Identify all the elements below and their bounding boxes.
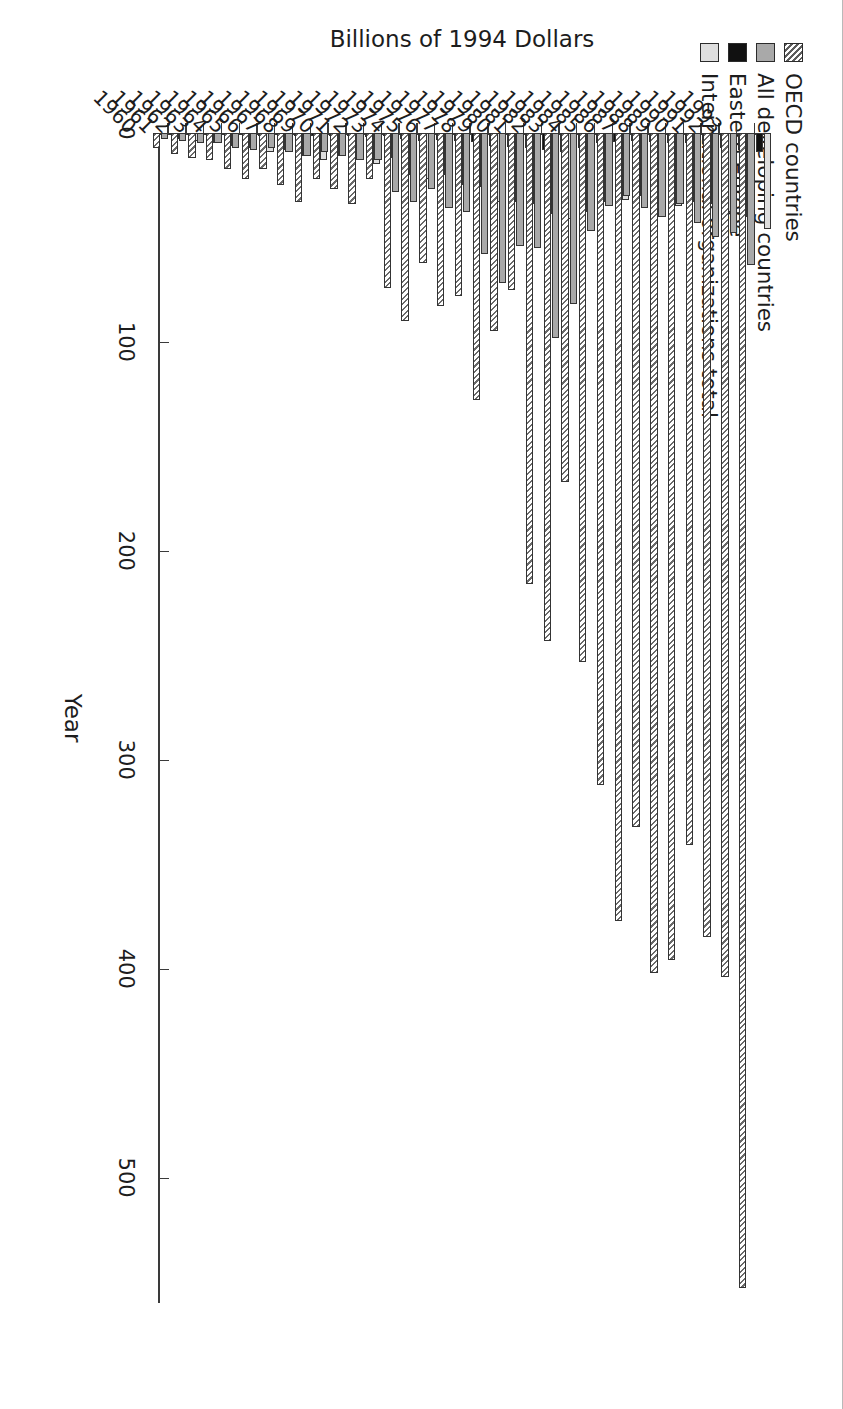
bar-group	[444, 133, 462, 1303]
bar	[561, 133, 568, 482]
bar	[614, 133, 621, 921]
bar	[525, 133, 532, 584]
y-axis-title-text: Billions of 1994 Dollars	[329, 26, 594, 52]
bar-group	[426, 133, 444, 1303]
bar	[721, 133, 728, 977]
bar-group	[302, 133, 320, 1303]
bar	[667, 133, 674, 960]
bar-group	[160, 133, 178, 1303]
bar-group	[746, 133, 764, 1303]
value-tick	[158, 341, 169, 342]
bar-group	[284, 133, 302, 1303]
bar-group	[248, 133, 266, 1303]
legend-item: OECD countries	[780, 43, 808, 418]
value-tick	[158, 550, 169, 551]
bar-chart-figure: OECD countriesAll developing countriesEa…	[22, 25, 822, 1385]
y-axis-title: Billions of 1994 Dollars	[160, 19, 764, 59]
page: OECD countriesAll developing countriesEa…	[0, 0, 843, 1409]
bar	[703, 133, 710, 937]
bar-group	[231, 133, 249, 1303]
bar-group	[177, 133, 195, 1303]
bar	[755, 133, 762, 152]
bar	[579, 133, 586, 662]
plot-area: 0100200300400500 19601961196219631964196…	[160, 133, 764, 1303]
bar-group	[337, 133, 355, 1303]
bar	[596, 133, 603, 785]
bar	[685, 133, 692, 845]
bar	[543, 133, 550, 641]
bar-group	[497, 133, 515, 1303]
bar-group	[408, 133, 426, 1303]
value-tick	[158, 968, 169, 969]
bar	[650, 133, 657, 973]
bar-group	[319, 133, 337, 1303]
bar	[763, 133, 770, 229]
value-tick-label: 400	[114, 948, 138, 988]
value-tick-label: 200	[114, 530, 138, 570]
rotated-figure-container: OECD countriesAll developing countriesEa…	[22, 25, 822, 1385]
bar-group	[373, 133, 391, 1303]
value-tick	[158, 1177, 169, 1178]
category-tick	[753, 123, 754, 133]
value-tick-label: 100	[114, 321, 138, 361]
value-tick-label: 300	[114, 739, 138, 779]
bar-series-container	[160, 133, 764, 1303]
value-tick	[158, 759, 169, 760]
bar-group	[195, 133, 213, 1303]
bar-group	[355, 133, 373, 1303]
legend-swatch-icon	[784, 43, 803, 62]
bar	[632, 133, 639, 827]
x-axis-title: Year	[60, 133, 86, 1303]
legend-label: OECD countries	[783, 73, 804, 242]
bar-group	[213, 133, 231, 1303]
bar	[738, 133, 745, 1288]
value-tick-label: 500	[114, 1157, 138, 1197]
bar-group	[266, 133, 284, 1303]
